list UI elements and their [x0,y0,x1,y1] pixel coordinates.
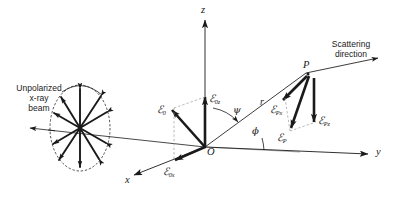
point-p-label: P [303,59,309,71]
vector-label-e0x: ℰ0x [163,161,175,179]
vector-label-ep: ℰP [277,127,287,145]
vector-e0x [175,147,205,160]
vector-label-e0z-sub: 0z [215,98,221,105]
vector-label-e0: ℰ0 [157,99,166,117]
vector-label-epz: ℰPz [318,110,330,128]
axis-label-z: z [201,4,205,16]
beam-label-line3: beam [8,104,70,114]
vector-label-epz-sub: Pz [324,120,330,127]
ray-projection-xy [205,147,300,152]
vector-e0 [172,110,205,147]
vector-label-e0-sub: 0 [163,109,166,116]
angle-phi-arc [262,138,264,150]
vector-label-e0z: ℰ0z [209,88,221,106]
radius-label: r [260,96,264,108]
point-p-marker [307,73,310,76]
incident-beam-axis [30,128,205,147]
vector-label-epx-sub: Px [276,109,283,116]
angle-psi-label: ψ [233,104,241,116]
origin-label: O [207,146,215,158]
scattering-direction-label: Scattering direction [321,40,381,60]
vector-epx [283,76,307,100]
scattering-label-line2: direction [321,50,381,60]
unpolarized-beam-label: Unpolarized x-ray beam [8,84,70,113]
scattering-ray [205,58,378,147]
vector-label-ep-sub: P [283,137,287,144]
origin-marker [204,146,207,149]
vector-label-e0x-sub: 0x [169,171,175,178]
axis-label-y: y [376,146,381,158]
scattering-diagram: Unpolarized x-ray beam Scattering direct… [0,0,400,205]
vector-label-epx: ℰPx [270,99,283,117]
angle-phi-label: ϕ [252,125,259,137]
axis-label-x: x [125,174,130,186]
